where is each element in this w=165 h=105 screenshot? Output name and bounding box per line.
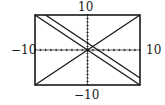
origin-point [86,48,90,52]
x-max-label: 10 [146,44,161,56]
x-min-label: −10 [11,44,36,56]
y-min-label: −10 [74,89,99,101]
y-max-label: 10 [78,1,93,13]
